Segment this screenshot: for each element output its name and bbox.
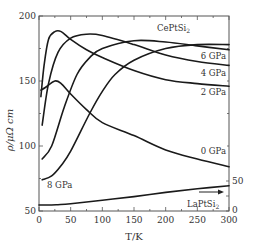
arrowhead-icon	[218, 190, 224, 195]
y-tick-label: 100	[19, 141, 36, 151]
x-tick-label: 100	[94, 215, 111, 225]
x-axis-label: T/K	[125, 231, 143, 242]
resistivity-chart: 05010015020025030050100150200050 6 GPa4 …	[0, 0, 254, 247]
x-tick-label: 250	[189, 215, 206, 225]
label-4gpa: 4 GPa	[201, 68, 226, 78]
annotations: 6 GPa4 GPa2 GPa0 GPa8 GPaCePtSi2LaPtSi2	[47, 23, 226, 210]
curve-4-gpa	[42, 34, 229, 125]
y-axis-label: ρ/μΩ cm	[4, 109, 15, 152]
x-tick-label: 300	[220, 215, 237, 225]
y-tick-label: 150	[19, 76, 36, 86]
x-tick-label: 150	[125, 215, 142, 225]
label-2gpa: 2 GPa	[201, 87, 226, 97]
y-tick-label: 50	[25, 206, 37, 216]
label-8gpa: 8 GPa	[47, 180, 72, 190]
y2-tick-label: 50	[232, 176, 244, 186]
subscript: 2	[186, 27, 190, 34]
y2-tick-label: 0	[232, 205, 238, 215]
label-0gpa: 0 GPa	[201, 146, 226, 156]
label-ceptsi2: CePtSi2	[157, 23, 190, 34]
y-tick-label: 200	[19, 11, 36, 21]
subscript: 2	[215, 203, 219, 210]
x-tick-label: 200	[157, 215, 174, 225]
x-tick-label: 0	[36, 215, 42, 225]
label-laptsi2: LaPtSi2	[187, 199, 219, 210]
x-tick-label: 50	[65, 215, 77, 225]
label-6gpa: 6 GPa	[201, 51, 226, 61]
